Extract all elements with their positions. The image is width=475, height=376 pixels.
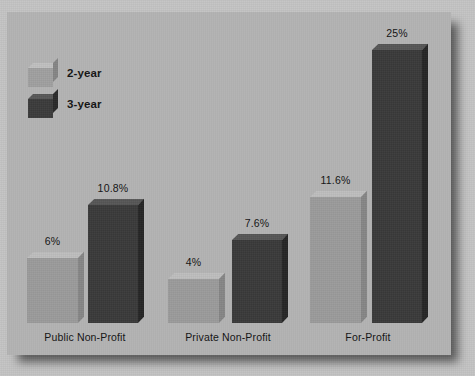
bar-public-non-profit-2-year[interactable]: 6% (27, 258, 78, 323)
bar-value-public-non-profit-2-year: 6% (45, 235, 61, 247)
chart-panel: 2-year 3-year 6% 10.8% Pu (7, 12, 451, 355)
bar-for-profit-2-year[interactable]: 11.6% (310, 197, 361, 323)
bar-private-non-profit-3-year[interactable]: 7.6% (232, 240, 282, 323)
bar-group-for-profit: 11.6% 25% For-Profit (310, 322, 440, 323)
bar-value-private-non-profit-3-year: 7.6% (245, 217, 270, 229)
bar-value-for-profit-3-year: 25% (386, 27, 408, 39)
bar-public-non-profit-3-year[interactable]: 10.8% (88, 205, 138, 323)
bar-group-private-non-profit: 4% 7.6% Private Non-Profit (168, 322, 298, 323)
bar-value-for-profit-2-year: 11.6% (321, 174, 351, 186)
bar-group-public-non-profit: 6% 10.8% Public Non-Profit (27, 322, 157, 323)
chart-screenshot: 2-year 3-year 6% 10.8% Pu (0, 0, 475, 376)
bar-value-public-non-profit-3-year: 10.8% (98, 182, 129, 194)
bar-private-non-profit-2-year[interactable]: 4% (168, 279, 219, 323)
bar-for-profit-3-year[interactable]: 25% (372, 50, 422, 323)
category-label-private-non-profit: Private Non-Profit (185, 331, 271, 343)
plot-area: 6% 10.8% Public Non-Profit 4% 7.6% P (7, 12, 451, 355)
bar-value-private-non-profit-2-year: 4% (186, 256, 202, 268)
category-label-for-profit: For-Profit (345, 331, 390, 343)
category-label-public-non-profit: Public Non-Profit (44, 331, 125, 343)
